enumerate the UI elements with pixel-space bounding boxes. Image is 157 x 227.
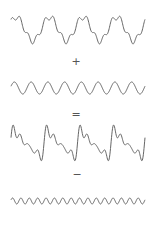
complex-wave-result xyxy=(11,125,145,161)
sine-wave xyxy=(11,82,145,94)
minus-operator: − xyxy=(67,169,87,181)
complex-wave-top xyxy=(11,16,145,44)
plus-operator: + xyxy=(66,56,86,68)
equals-operator: = xyxy=(66,109,86,121)
fast-sine-wave xyxy=(11,198,145,204)
